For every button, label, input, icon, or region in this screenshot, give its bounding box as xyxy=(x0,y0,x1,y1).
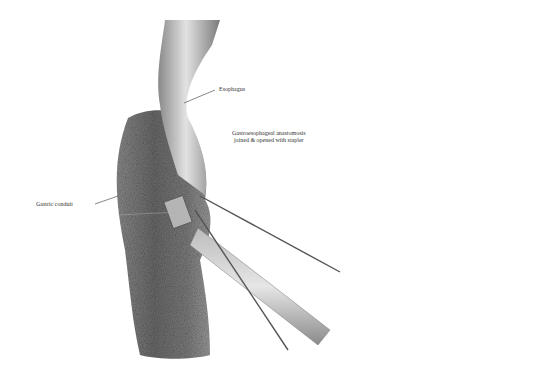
esophagus-label: Esophagus xyxy=(219,86,245,93)
anastomosis-label-line2: joined & opened with stapler xyxy=(232,137,305,144)
anatomy-illustration xyxy=(0,0,540,373)
gastric-conduit-label: Gastric conduit xyxy=(36,201,73,208)
esophagus-leader-line xyxy=(184,90,215,103)
gastric-conduit-leader-line xyxy=(95,196,118,204)
anastomosis-label: Gastroesophageal anastomosis joined & op… xyxy=(232,130,305,144)
illustration-canvas: Esophagus Gastroesophageal anastomosis j… xyxy=(0,0,540,373)
anastomosis-label-line1: Gastroesophageal anastomosis xyxy=(232,130,305,137)
stapler-shaft xyxy=(190,228,330,345)
